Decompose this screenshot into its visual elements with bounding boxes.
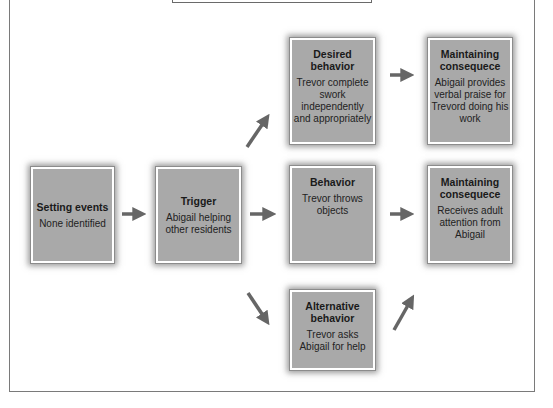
alternative-behavior-title: Alternative behavior: [295, 300, 371, 324]
maintaining-consequence-desired-title: Maintaining consequece: [432, 48, 508, 72]
maintaining-consequence-desired-box: Maintaining consequece Abigail provides …: [428, 38, 512, 144]
maintaining-consequence-problem-body: Receives adult attention from Abigail: [431, 205, 509, 241]
desired-behavior-body: Trevor complete swork independently and …: [291, 77, 375, 125]
maintaining-consequence-problem-box: Maintaining consequece Receives adult at…: [428, 166, 512, 263]
desired-behavior-title: Desired behavior: [300, 48, 366, 72]
maintaining-consequence-desired-body: Abigail provides verbal praise for Trevo…: [428, 77, 512, 125]
setting-events-body: None identified: [37, 218, 108, 230]
trigger-body: Abigail helping other residents: [161, 212, 237, 236]
trigger-title: Trigger: [178, 195, 220, 207]
alternative-behavior-body: Trevor asks Abigail for help: [291, 329, 375, 353]
setting-events-title: Setting events: [34, 201, 112, 213]
trigger-box: Trigger Abigail helping other residents: [156, 167, 241, 263]
desired-behavior-box: Desired behavior Trevor complete swork i…: [290, 38, 375, 144]
behavior-title: Behavior: [307, 176, 358, 188]
setting-events-box: Setting events None identified: [31, 167, 114, 263]
maintaining-consequence-problem-title: Maintaining consequece: [432, 176, 508, 200]
behavior-body: Trevor throws objects: [296, 193, 370, 217]
caption-box: [172, 0, 372, 3]
alternative-behavior-box: Alternative behavior Trevor asks Abigail…: [290, 290, 375, 370]
behavior-box: Behavior Trevor throws objects: [290, 166, 375, 263]
